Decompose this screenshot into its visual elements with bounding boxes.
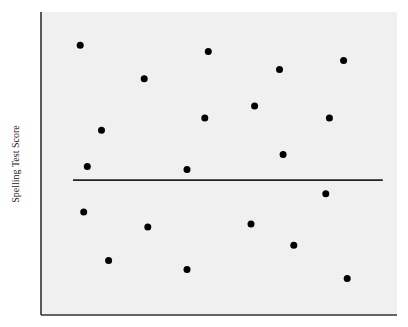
- data-point: [144, 224, 151, 231]
- data-point: [280, 151, 287, 158]
- data-point: [344, 275, 351, 282]
- data-point: [276, 66, 283, 73]
- data-point: [290, 242, 297, 249]
- data-point: [251, 102, 258, 109]
- data-point: [184, 266, 191, 273]
- data-point: [340, 57, 347, 64]
- data-point: [248, 221, 255, 228]
- y-axis-label: Spelling Test Score: [10, 125, 21, 203]
- data-point: [141, 75, 148, 82]
- data-point: [205, 48, 212, 55]
- data-point: [322, 190, 329, 197]
- data-point: [84, 163, 91, 170]
- data-point: [326, 115, 333, 122]
- data-point: [77, 42, 84, 49]
- data-point: [98, 127, 105, 134]
- data-point: [80, 209, 87, 216]
- scatter-chart: Spelling Test Score: [0, 0, 408, 327]
- data-point: [201, 115, 208, 122]
- data-point: [184, 166, 191, 173]
- data-point: [105, 257, 112, 264]
